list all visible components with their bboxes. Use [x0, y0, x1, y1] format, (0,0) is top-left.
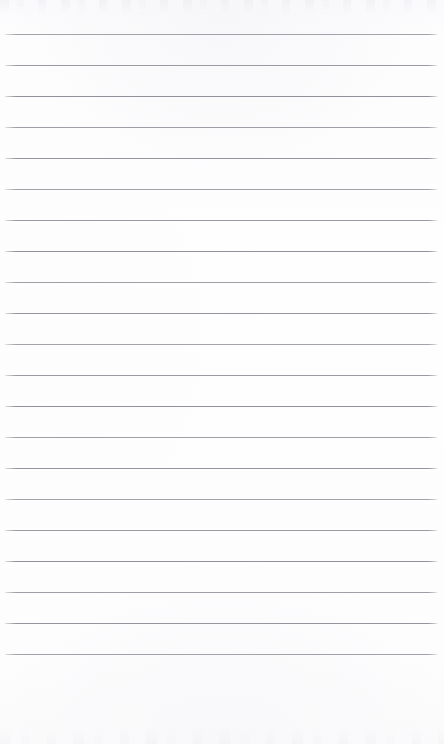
lined-paper-page	[0, 0, 444, 744]
rule-line	[4, 34, 438, 35]
rule-line	[4, 437, 438, 438]
rule-line	[4, 220, 438, 221]
rule-line	[4, 189, 438, 190]
rule-line	[4, 561, 438, 562]
rule-line	[4, 592, 438, 593]
rule-line	[4, 282, 438, 283]
rule-line	[4, 344, 438, 345]
scan-noise-bottom-edge	[0, 728, 444, 744]
rule-line	[4, 375, 438, 376]
rule-line	[4, 623, 438, 624]
rule-line	[4, 65, 438, 66]
ruled-lines-layer	[0, 0, 444, 744]
rule-line	[4, 406, 438, 407]
rule-line	[4, 499, 438, 500]
rule-line	[4, 127, 438, 128]
rule-line	[4, 313, 438, 314]
rule-line	[4, 468, 438, 469]
rule-line	[4, 251, 438, 252]
rule-line	[4, 530, 438, 531]
rule-line	[4, 96, 438, 97]
rule-line	[4, 158, 438, 159]
